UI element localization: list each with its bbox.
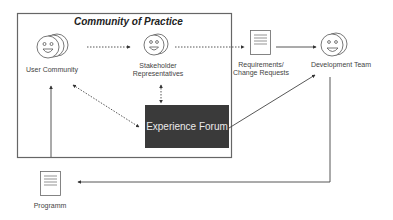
- edge-forum-to-dev: [229, 75, 315, 128]
- document-icon: [251, 31, 271, 55]
- stakeholder-label: Stakeholder Representatives: [126, 62, 190, 78]
- frame-title: Community of Practice: [74, 16, 183, 27]
- requirements-label: Requirements/ Change Requests: [228, 61, 294, 77]
- stakeholder-label-line2: Representatives: [126, 70, 190, 78]
- stakeholder-label-line1: Stakeholder: [126, 62, 190, 70]
- development-team-label: Development Team: [306, 61, 376, 69]
- programm-label: Programm: [28, 202, 72, 210]
- document-icon: [41, 172, 61, 196]
- smiley-face-icon: [144, 34, 168, 55]
- requirements-label-line2: Change Requests: [228, 69, 294, 77]
- experience-forum-box: Experience Forum: [145, 105, 229, 148]
- user-community-label: User Community: [22, 66, 82, 74]
- requirements-label-line1: Requirements/: [228, 61, 294, 69]
- smiley-face-icon: [321, 33, 347, 56]
- experience-forum-label: Experience Forum: [146, 121, 228, 132]
- edge-user-forum: [73, 85, 139, 127]
- group-smiley-face-icon: [37, 34, 68, 58]
